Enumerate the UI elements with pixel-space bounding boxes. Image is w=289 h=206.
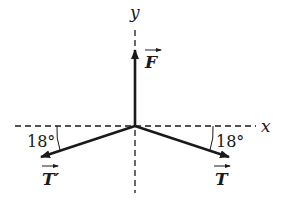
x-axis-label: x xyxy=(261,116,271,136)
angle-label-T: 18° xyxy=(216,132,244,151)
vector-T xyxy=(135,126,229,157)
angle-label-T-prime: 18° xyxy=(27,132,55,151)
svg-text:F: F xyxy=(144,52,159,72)
y-axis-label: y xyxy=(129,2,140,22)
vector-T-prime-label: T′ xyxy=(42,166,60,189)
force-diagram: y x F T T′ 18° 18° xyxy=(0,0,289,206)
angle-arc-T xyxy=(210,126,213,150)
vector-F-label: F xyxy=(144,50,161,72)
svg-text:T: T xyxy=(215,169,229,189)
svg-text:T′: T′ xyxy=(42,169,60,189)
vector-T-label: T xyxy=(214,166,230,189)
angle-arc-T-prime xyxy=(57,126,60,150)
